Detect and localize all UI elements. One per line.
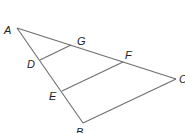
triangle-diagram: ABCDEFG — [0, 0, 185, 133]
point-label-b: B — [76, 126, 83, 133]
point-label-f: F — [125, 49, 133, 61]
side-AC — [17, 28, 176, 79]
point-label-g: G — [77, 35, 86, 47]
point-label-c: C — [179, 73, 185, 85]
point-label-d: D — [27, 58, 35, 70]
segment-EF — [62, 62, 123, 91]
point-label-a: A — [3, 24, 11, 36]
side-BC — [83, 79, 176, 123]
side-AB — [17, 28, 83, 123]
point-label-e: E — [49, 90, 57, 102]
segment-DG — [40, 45, 71, 60]
